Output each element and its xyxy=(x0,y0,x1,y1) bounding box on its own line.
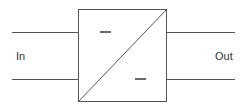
converter-diagonal xyxy=(79,10,167,102)
input-label: In xyxy=(16,50,25,62)
converter-diagram: In Out xyxy=(0,0,248,108)
output-label: Out xyxy=(215,50,233,62)
